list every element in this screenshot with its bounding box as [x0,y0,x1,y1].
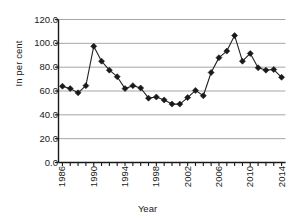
x-axis-tick-label: 1998 [151,166,161,187]
x-axis-tick-label: 1986 [57,166,67,187]
x-axis-title: Year [0,203,295,214]
x-axis-tick-label: 2010 [245,166,255,187]
data-point-marker [91,43,97,49]
data-point-marker [255,65,261,71]
data-point-marker [161,97,167,103]
data-point-marker [232,33,238,39]
chart-container: In per cent 0.020.040.060.080.0100.0120.… [0,0,295,222]
x-axis-tick-label: 2014 [277,166,287,187]
x-axis-tick-label: 2006 [214,166,224,187]
data-point-marker [130,83,136,89]
x-axis-tick-labels: 19861990199419982002200620102014 [0,166,295,206]
data-point-marker [153,94,159,100]
data-point-marker [263,67,269,73]
data-point-marker [59,83,65,89]
data-point-marker [169,101,175,107]
x-axis-tick-label: 1994 [120,166,130,187]
x-axis-tick-label: 1990 [89,166,99,187]
data-point-marker [208,70,214,76]
x-axis-tick-label: 2002 [183,166,193,187]
